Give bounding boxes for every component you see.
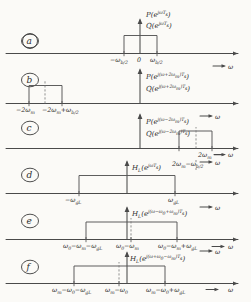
- spectra-diagram: a P(ejωTs) Q(ejωTs) −ωb/2 0 ωb/2 ω b: [0, 0, 251, 302]
- svg-text:−2ωm: −2ωm: [16, 106, 35, 115]
- panel-e-label-3-t: −ω: [166, 242, 176, 249]
- panel-f-top-omega-label: ω: [215, 248, 220, 255]
- panel-b-den-close: ): [186, 85, 190, 93]
- panel-b-axis-arrow: [233, 102, 238, 106]
- panel-a-omega-arrow-head: [222, 64, 227, 67]
- figure-canvas: a P(ejωTs) Q(ejωTs) −ωb/2 0 ωb/2 ω b: [0, 0, 251, 302]
- panel-d-label-neg-wgl: −ω: [65, 196, 75, 203]
- panel-e-label-2-t-sub: m: [135, 246, 140, 251]
- panel-e-pulse: [86, 222, 177, 240]
- panel-d-vaxis-arrow: [125, 160, 130, 166]
- panel-b-den-exp: j(ω+2ω: [158, 84, 177, 90]
- panel-b-vaxis-arrow: [138, 68, 143, 74]
- svg-text:ωm−ω0+ωgL: ωm−ω0+ωgL: [146, 286, 185, 296]
- panel-c-den-close: ): [186, 130, 190, 138]
- panel-e: e: [6, 206, 238, 242]
- svg-text:−ωb/2: −ωb/2: [110, 56, 128, 65]
- svg-text:P(ej(ω+2ωm)Ts): P(ej(ω+2ωm)Ts): [145, 72, 189, 81]
- panel-a-num-close: ): [167, 11, 171, 19]
- panel-b-label-neg2wm: −2ω: [16, 106, 30, 113]
- panel-f-label-3-t2: +ω: [169, 286, 179, 293]
- panel-e-top-omega-label: ω: [215, 204, 220, 211]
- panel-f-marker: [22, 260, 39, 274]
- svg-text:HL(ejωTs): HL(ejωTs): [131, 163, 161, 173]
- panel-b-fn-label: P(ej(ω+2ωm)Ts) Q(ej(ω+2ωm)Ts): [145, 72, 190, 93]
- panel-a-letter: a: [27, 36, 32, 46]
- panel-d-axis-arrow: [233, 192, 238, 196]
- panel-d-fn-label: HL(ejωTs): [131, 163, 161, 173]
- panel-b-num: P(e: [145, 73, 158, 81]
- panel-f-label-2-t: −ω: [115, 286, 125, 293]
- panel-f-omega-top: ω: [200, 248, 220, 255]
- panel-e-fn-close: ): [183, 210, 187, 218]
- panel-a-label-zero: 0: [137, 56, 141, 63]
- panel-d-fn-open: (e: [141, 164, 148, 172]
- panel-c-vaxis-arrow: [138, 113, 143, 119]
- panel-c-num: P(e: [145, 118, 158, 126]
- panel-a-omega-axis-label: ω: [228, 63, 233, 70]
- panel-e-fn-open: (e: [141, 210, 148, 218]
- svg-text:ωm−ω0: ωm−ω0: [105, 286, 128, 295]
- panel-c-label-minus-wb2: −ω: [186, 160, 196, 167]
- panel-e-label-3-t2-sub: gL: [191, 246, 197, 252]
- panel-a-label-neg-wb2: −ω: [110, 56, 120, 63]
- panel-c-den-exp: j(ω−2ω: [158, 129, 177, 135]
- panel-f: f: [6, 251, 238, 286]
- panel-e-label-3-t2: +ω: [181, 242, 191, 249]
- panel-e-axis-arrow: [233, 238, 238, 242]
- panel-c-fn-label: P(ej(ω−2ωm)Ts) Q(ej(ω−2ωm)Ts): [145, 117, 190, 138]
- svg-text:ω0−ωm+ωgL: ω0−ωm+ωgL: [158, 242, 197, 252]
- panel-a-vaxis-arrow: [138, 18, 143, 24]
- svg-text:ω0−ωm: ω0−ωm: [116, 242, 140, 251]
- panel-f-axis-arrow: [233, 282, 238, 286]
- panel-c-label-minus-wb2-sub: b/2: [196, 164, 203, 169]
- panel-e-top-arrow-head: [209, 205, 214, 208]
- panel-f-label-1-t: −ω: [62, 286, 72, 293]
- panel-a-axis-arrow: [233, 52, 238, 56]
- panel-b-pulse: [29, 86, 62, 104]
- panel-c-omega-top: ω: [200, 113, 220, 120]
- panel-f-fn-exp: j(ω+ω: [145, 254, 161, 260]
- panel-e-tick-labels: ω0−ωm−ωgL ω0−ωm ω0−ωm+ωgL ω: [63, 242, 233, 252]
- panel-b-letter: b: [27, 75, 33, 85]
- panel-e-fn-label: HL(ej(ω−ω0+ωm)Ts): [131, 209, 187, 219]
- panel-f-label-3-t2-sub: gL: [179, 290, 185, 296]
- panel-c-omega-arrow-head: [222, 153, 227, 156]
- panel-c-den: Q(e: [146, 130, 159, 138]
- svg-text:ωm−ω0−ωgL: ωm−ω0−ωgL: [52, 286, 91, 296]
- panel-b-num-exp: j(ω+2ω: [157, 72, 176, 78]
- panel-b-tick-labels: −2ωm −2ωm+ωb/2: [16, 106, 79, 115]
- panel-c-num-exp: j(ω−2ω: [157, 117, 176, 123]
- panel-f-fn-label: HL(ej(ω+ω0−ωm)Ts): [129, 254, 185, 264]
- panel-a-label-wb2-sub: b/2: [155, 60, 162, 65]
- panel-e-omega-arrow-head: [221, 245, 226, 248]
- panel-b-den: Q(e: [146, 85, 159, 93]
- panel-c-letter: c: [27, 123, 32, 133]
- panel-d-label-wgl-sub: gL: [173, 200, 179, 206]
- panel-a-num: P(e: [145, 11, 158, 19]
- panel-b-label-plus-wb2: +ω: [61, 106, 71, 113]
- svg-text:−2ωm+ωb/2: −2ωm+ωb/2: [42, 106, 79, 115]
- panel-c-label-2wm-wb2: 2ω: [171, 160, 181, 167]
- panel-d-top-omega-label: ω: [215, 159, 220, 166]
- svg-text:−ωgL: −ωgL: [65, 196, 81, 206]
- svg-text:ωb/2: ωb/2: [150, 56, 163, 65]
- panel-c-tick-labels: 2ωm ω 2ωm−ωb/2: [171, 151, 233, 170]
- panel-b-label-neg2wm2: −2ω: [42, 106, 56, 113]
- panel-f-letter: f: [26, 262, 32, 272]
- panel-a-den: Q(e: [146, 22, 159, 30]
- panel-f-label-3-t: −ω: [156, 286, 166, 293]
- panel-f-top-arrow-head: [209, 249, 214, 252]
- svg-text:Q(ej(ω−2ωm)Ts): Q(ej(ω−2ωm)Ts): [146, 129, 190, 138]
- panel-b: b: [6, 68, 238, 106]
- panel-c-label-2wm-sub: m: [207, 155, 212, 160]
- svg-text:2ωm−ωb/2: 2ωm−ωb/2: [171, 160, 203, 169]
- panel-e-label-1-t2-sub: gL: [96, 246, 102, 252]
- svg-text:HL(ej(ω−ω0+ωm)Ts): HL(ej(ω−ω0+ωm)Ts): [131, 209, 187, 219]
- panel-c: c: [6, 113, 238, 151]
- panel-d-letter: d: [27, 170, 33, 180]
- panel-f-omega-arrow-head: [215, 288, 220, 291]
- svg-text:HL(ej(ω+ω0−ωm)Ts): HL(ej(ω+ω0−ωm)Ts): [129, 254, 185, 264]
- panel-e-vaxis-arrow: [125, 206, 130, 212]
- panel-e-fn-exp: j(ω−ω: [147, 209, 163, 215]
